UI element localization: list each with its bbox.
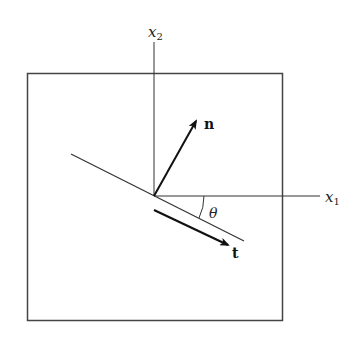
body-square — [28, 74, 283, 321]
x1-axis-label: x1 — [325, 188, 340, 207]
angle-arc — [199, 196, 204, 218]
x2-axis-label: x2 — [148, 23, 163, 42]
normal-vector-label: n — [204, 116, 214, 132]
crack-line — [71, 154, 244, 241]
tangent-vector-label: t — [232, 245, 239, 261]
normal-vector-arrow — [154, 121, 196, 196]
angle-theta-label: θ — [209, 205, 218, 221]
crack-orientation-diagram: x2 x1 n t θ — [0, 0, 363, 341]
